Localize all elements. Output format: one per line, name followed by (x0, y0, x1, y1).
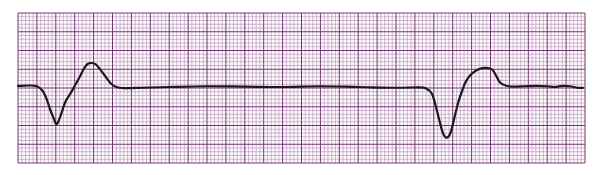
ecg-strip (0, 0, 602, 175)
